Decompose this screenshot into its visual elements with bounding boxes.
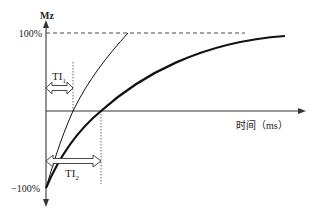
tick-label-minus-100: −100% (11, 183, 40, 194)
y-axis-down-arrow-icon (43, 199, 49, 207)
ti1-double-arrow-icon (46, 82, 73, 94)
inversion-recovery-diagram: TI1 TI2 Mz 100% −100% 时间（ms） (0, 0, 315, 211)
y-axis-label: Mz (40, 10, 54, 21)
x-axis-label: 时间（ms） (236, 119, 288, 131)
tick-label-100: 100% (19, 28, 42, 39)
ti2-label: TI2 (65, 167, 79, 182)
x-axis-arrow-icon (298, 108, 306, 114)
y-axis-up-arrow-icon (43, 20, 49, 28)
ti2-double-arrow-icon (46, 155, 101, 167)
ti1-label: TI1 (52, 70, 66, 85)
slow-recovery-curve (46, 36, 285, 188)
